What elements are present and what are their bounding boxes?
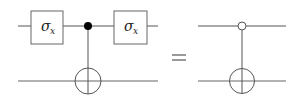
equals-sign — [172, 55, 186, 60]
sigma-x-gate-1: σ x — [31, 11, 63, 44]
gate-2-subscript: x — [133, 26, 138, 36]
filled-control-dot-icon — [84, 22, 92, 30]
gate-1-subscript: x — [50, 26, 55, 36]
right-circuit — [198, 22, 286, 94]
circuit-identity-diagram: σ x σ x — [0, 0, 305, 102]
left-circuit: σ x σ x — [18, 11, 158, 94]
open-control-dot-icon — [238, 22, 246, 30]
sigma-x-gate-2: σ x — [114, 11, 147, 44]
